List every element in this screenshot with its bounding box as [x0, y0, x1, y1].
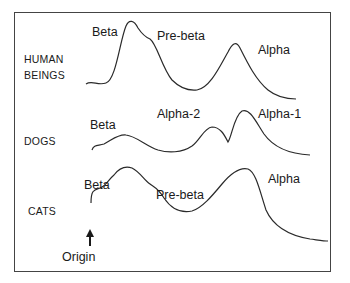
species-label-cats: CATS	[28, 203, 56, 219]
peak-label-cats-alpha: Alpha	[268, 172, 300, 186]
peak-label-cats-prebeta: Pre-beta	[156, 188, 204, 202]
peak-label-human-prebeta: Pre-beta	[157, 29, 205, 43]
species-label-human: HUMAN BEINGS	[24, 51, 65, 83]
species-label-line-2: BEINGS	[24, 67, 65, 83]
peak-label-human-alpha: Alpha	[258, 43, 290, 57]
origin-arrow-icon	[86, 229, 94, 246]
peak-label-cats-beta: Beta	[84, 178, 110, 192]
peak-label-human-beta: Beta	[92, 25, 118, 39]
origin-label: Origin	[62, 250, 95, 264]
species-label-dogs: DOGS	[24, 133, 56, 149]
peak-label-dogs-beta: Beta	[90, 118, 116, 132]
peak-label-dogs-alpha1: Alpha-1	[258, 107, 301, 121]
peak-label-dogs-alpha2: Alpha-2	[157, 107, 200, 121]
species-label-line-1: HUMAN	[24, 51, 65, 67]
